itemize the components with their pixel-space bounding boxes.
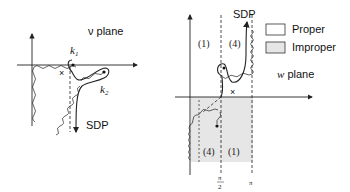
nu-plane-label: ν plane xyxy=(88,25,123,37)
sdp-label-left: SDP xyxy=(86,119,109,131)
saddle-cross: × xyxy=(59,68,64,78)
region-label-bottom-right: (1) xyxy=(228,146,240,158)
sdp-label-right: SDP xyxy=(233,8,256,20)
k1-point xyxy=(71,63,74,66)
pole-lower xyxy=(215,124,218,127)
branch-cut-vertical xyxy=(33,67,36,122)
contour-diagram: × ν plane k1 k2 SDP × (1) (4) (4) (1) SD… xyxy=(0,0,350,192)
k2-label: k2 xyxy=(100,83,109,97)
nu-plane-panel: × ν plane k1 k2 SDP xyxy=(17,25,137,135)
improper-region xyxy=(191,97,253,162)
w-plane-label: w plane xyxy=(277,68,314,80)
saddle-cross-w: × xyxy=(230,87,235,97)
pole-upper xyxy=(223,67,226,70)
legend-swatch-improper xyxy=(266,42,285,53)
tick-pi-half-num: π xyxy=(218,174,222,182)
w-plane-panel: × (1) (4) (4) (1) SDP π 2 π w plane xyxy=(175,8,314,191)
region-label-top-left: (1) xyxy=(198,38,210,50)
tick-pi-half-den: 2 xyxy=(218,183,222,191)
legend-swatch-proper xyxy=(266,24,285,35)
tick-pi: π xyxy=(249,179,253,187)
region-label-bottom-left: (4) xyxy=(203,146,215,158)
region-label-top-right: (4) xyxy=(229,38,241,50)
legend-label-improper: Improper xyxy=(292,41,336,53)
k1-label: k1 xyxy=(70,44,78,58)
legend: Proper Improper xyxy=(266,23,336,53)
k2-point xyxy=(102,70,105,73)
legend-label-proper: Proper xyxy=(292,23,325,35)
sdp-contour-w xyxy=(218,22,247,97)
